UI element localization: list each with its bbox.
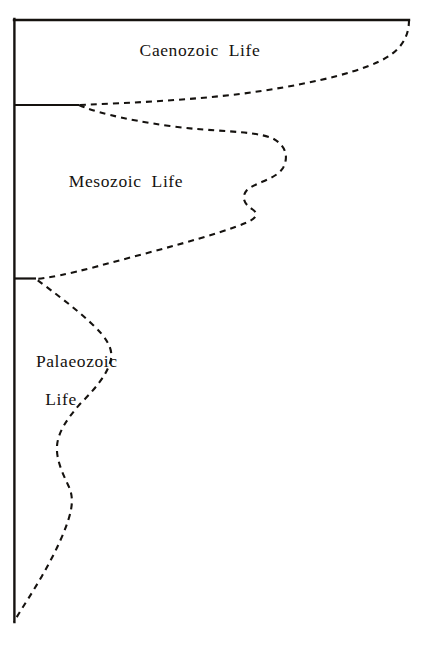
spindle-diagram-figure: Caenozoic Life Mesozoic Life Palaeozoic … — [0, 0, 426, 646]
era-label-palaeozoic-line2: Life — [16, 390, 106, 409]
diversity-spindle-curve-upper — [79, 20, 409, 105]
diagram-canvas — [0, 0, 426, 646]
era-label-palaeozoic: Palaeozoic Life — [16, 333, 106, 447]
era-label-mesozoic: Mesozoic Life — [62, 172, 190, 191]
era-label-palaeozoic-line1: Palaeozoic — [36, 351, 118, 371]
era-label-caenozoic: Caenozoic Life — [120, 41, 280, 60]
